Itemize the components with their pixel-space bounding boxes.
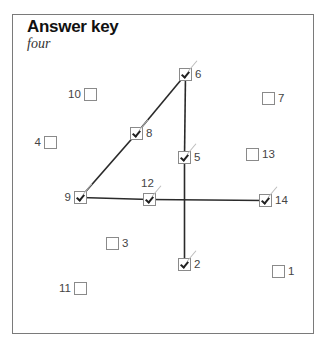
checkbox-empty-icon[interactable] — [74, 282, 87, 295]
numbered-checkbox-5[interactable]: 5 — [178, 150, 200, 164]
checkbox-number-label: 13 — [262, 148, 275, 160]
checkbox-number-label: 7 — [278, 92, 284, 104]
numbered-checkbox-14[interactable]: 14 — [259, 193, 288, 207]
numbered-checkbox-3[interactable]: 3 — [106, 236, 128, 250]
checkbox-empty-icon[interactable] — [246, 148, 259, 161]
checkbox-number-label: 8 — [146, 127, 152, 139]
numbered-checkbox-9[interactable]: 9 — [65, 190, 87, 204]
checkbox-checked-icon[interactable] — [143, 193, 156, 206]
numbered-checkbox-10[interactable]: 10 — [68, 87, 97, 101]
checkbox-checked-icon[interactable] — [74, 191, 87, 204]
checkbox-empty-icon[interactable] — [272, 265, 285, 278]
checkbox-number-label: 1 — [288, 265, 294, 277]
checkbox-number-label: 4 — [35, 136, 41, 148]
checkbox-number-label: 12 — [141, 177, 154, 189]
page-title: Answer key — [27, 17, 119, 37]
checkbox-number-label: 10 — [68, 88, 81, 100]
numbered-checkbox-8[interactable]: 8 — [130, 126, 152, 140]
checkbox-checked-icon[interactable] — [178, 258, 191, 271]
numbered-checkbox-1[interactable]: 1 — [272, 264, 294, 278]
checkbox-checked-icon[interactable] — [178, 151, 191, 164]
checkbox-number-label: 5 — [194, 151, 200, 163]
checkbox-empty-icon[interactable] — [84, 88, 97, 101]
numbered-checkbox-7[interactable]: 7 — [262, 91, 284, 105]
checkbox-number-label: 11 — [59, 282, 71, 294]
checkbox-number-label: 14 — [275, 194, 288, 206]
answer-key-frame — [12, 14, 314, 334]
checkbox-number-label: 9 — [65, 191, 71, 203]
answer-subtitle: four — [27, 36, 50, 52]
checkbox-empty-icon[interactable] — [262, 92, 275, 105]
numbered-checkbox-4[interactable]: 4 — [35, 135, 57, 149]
checkbox-empty-icon[interactable] — [44, 136, 57, 149]
checkbox-checked-icon[interactable] — [130, 127, 143, 140]
checkbox-number-label: 2 — [194, 258, 200, 270]
numbered-checkbox-12[interactable]: 12 — [143, 192, 156, 206]
checkbox-checked-icon[interactable] — [179, 68, 192, 81]
checkbox-number-label: 6 — [195, 68, 201, 80]
checkbox-number-label: 3 — [122, 237, 128, 249]
checkbox-checked-icon[interactable] — [259, 194, 272, 207]
numbered-checkbox-11[interactable]: 11 — [59, 281, 87, 295]
numbered-checkbox-13[interactable]: 13 — [246, 147, 275, 161]
numbered-checkbox-6[interactable]: 6 — [179, 67, 201, 81]
checkbox-empty-icon[interactable] — [106, 237, 119, 250]
numbered-checkbox-2[interactable]: 2 — [178, 257, 200, 271]
